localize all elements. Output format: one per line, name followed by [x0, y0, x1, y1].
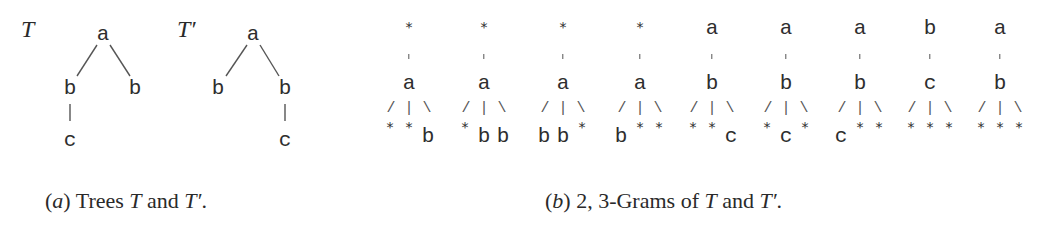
gram-parent: b	[924, 18, 937, 39]
gram-edge	[929, 54, 930, 59]
gram-parent: a	[854, 18, 867, 39]
gram-edge	[785, 54, 786, 59]
gram-node: a	[403, 73, 416, 94]
gram-node: a	[634, 73, 647, 94]
gram-node: a	[557, 73, 570, 94]
gram-child: *	[764, 120, 771, 134]
gram-parent: *	[560, 20, 567, 34]
tree-node-leaf: c	[64, 130, 77, 151]
gram-fan-edges: / | \	[977, 101, 1022, 116]
gram-edge	[408, 54, 409, 59]
gram-child: b	[557, 126, 570, 147]
gram-node: b	[994, 73, 1007, 94]
gram-child: *	[690, 120, 697, 134]
gram-parent: a	[780, 18, 793, 39]
gram-edge	[859, 54, 860, 59]
gram-child: *	[387, 120, 394, 134]
gram-child: *	[946, 120, 953, 134]
gram-child: b	[538, 126, 551, 147]
gram-child: c	[835, 126, 848, 147]
gram-child: *	[802, 120, 809, 134]
gram-fan-edges: / | \	[617, 101, 662, 116]
gram-fan-edges: / | \	[461, 101, 506, 116]
tree-label: T′	[177, 17, 196, 41]
gram-node: b	[854, 73, 867, 94]
tree-node: b	[279, 78, 292, 99]
gram-edge	[639, 54, 640, 59]
gram-fan-edges: / | \	[837, 101, 882, 116]
gram-child: *	[1016, 120, 1023, 134]
gram-child: c	[725, 126, 738, 147]
gram-parent: a	[994, 18, 1007, 39]
tree-node-root: a	[247, 24, 260, 45]
gram-child: b	[497, 126, 510, 147]
gram-child: b	[422, 126, 435, 147]
gram-parent: a	[706, 18, 719, 39]
tree-node-root: a	[97, 24, 110, 45]
gram-fan-edges: / | \	[386, 101, 431, 116]
gram-edge	[711, 54, 712, 59]
caption-a: (a) Trees T and T′.	[45, 190, 207, 212]
gram-parent: *	[481, 20, 488, 34]
gram-node: c	[924, 73, 937, 94]
gram-child: *	[462, 120, 469, 134]
gram-child: *	[876, 120, 883, 134]
gram-parent: *	[406, 20, 413, 34]
tree-node: b	[129, 78, 142, 99]
gram-edge	[562, 54, 563, 59]
gram-edge	[483, 54, 484, 59]
gram-child: *	[908, 120, 915, 134]
gram-node: a	[478, 73, 491, 94]
gram-child: *	[927, 120, 934, 134]
gram-child: *	[709, 120, 716, 134]
gram-parent: *	[637, 20, 644, 34]
gram-fan-edges: / | \	[907, 101, 952, 116]
gram-child: *	[978, 120, 985, 134]
gram-child: *	[656, 120, 663, 134]
gram-child: *	[997, 120, 1004, 134]
gram-fan-edges: / | \	[689, 101, 734, 116]
gram-fan-edges: / | \	[540, 101, 585, 116]
caption-b: (b) 2, 3-Grams of T and T′.	[545, 190, 782, 212]
gram-node: b	[780, 73, 793, 94]
gram-child: c	[780, 126, 793, 147]
tree-node: b	[212, 78, 225, 99]
gram-fan-edges: / | \	[763, 101, 808, 116]
gram-child: *	[637, 120, 644, 134]
gram-edge	[999, 54, 1000, 59]
tree-node: b	[64, 78, 77, 99]
gram-child: b	[478, 126, 491, 147]
gram-child: b	[615, 126, 628, 147]
gram-child: *	[406, 120, 413, 134]
gram-child: *	[579, 120, 586, 134]
tree-node-leaf: c	[279, 130, 292, 151]
gram-node: b	[706, 73, 719, 94]
gram-child: *	[857, 120, 864, 134]
tree-label: T	[21, 17, 34, 41]
